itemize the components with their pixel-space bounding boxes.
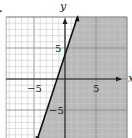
inequality-graph: . y x −5 5 5 −5	[0, 0, 132, 138]
y-tick-label-neg5: −5	[49, 105, 64, 116]
problem-marker: .	[0, 3, 2, 14]
x-tick-label-neg5: −5	[27, 83, 42, 94]
y-tick-label-5: 5	[55, 43, 61, 54]
y-axis-label: y	[59, 0, 67, 13]
x-axis-label: x	[128, 72, 132, 85]
x-tick-label-5: 5	[93, 83, 99, 94]
